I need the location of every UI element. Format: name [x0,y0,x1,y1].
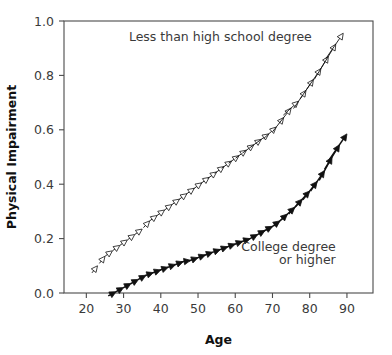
arrow-head [341,134,347,141]
arrow-head [113,245,120,251]
y-axis-tick-label: 0.8 [34,68,54,83]
y-axis-tick-label: 1.0 [34,14,54,29]
x-axis-tick-label: 60 [227,301,243,316]
arrow-head [91,266,97,273]
y-axis-tick-label: 0.0 [34,286,54,301]
x-axis-tick-label: 20 [78,301,94,316]
arrow-head [99,256,105,263]
arrow-head [180,194,187,200]
arrow-head [109,292,116,298]
arrow-shaft [326,37,341,59]
arrow-head [165,205,172,211]
y-axis-tick-label: 0.2 [34,231,54,246]
arrow-head [121,240,128,246]
arrow-head [184,258,191,264]
x-axis-tick-label: 80 [302,301,318,316]
arrow-head [139,275,146,281]
arrow-head [158,210,165,216]
arrow-head [188,188,195,194]
arrow-head [173,199,180,205]
x-axis-tick-label: 40 [153,301,169,316]
series-annotation: Less than high school degree [129,29,312,44]
arrow-head [131,279,138,285]
x-axis-tick-label: 70 [265,301,281,316]
series-1 [91,33,343,273]
x-axis-tick-label: 30 [116,301,132,316]
arrow-shaft [329,137,344,159]
y-axis-tick-label: 0.4 [34,177,54,192]
chart-container: 20304050607080900.00.20.40.60.81.0AgePhy… [0,0,392,355]
series-annotation: or higher [279,252,337,267]
y-axis-title: Physical Impairment [4,85,19,229]
y-axis-tick-label: 0.6 [34,122,54,137]
arrow-head [106,251,113,257]
arrow-head [124,283,131,289]
arrow-head [135,229,142,235]
series-2 [108,134,347,298]
x-axis-title: Age [205,332,232,347]
x-axis-tick-label: 90 [339,301,355,316]
arrow-head [150,215,157,221]
physical-impairment-by-age-chart: 20304050607080900.00.20.40.60.81.0AgePhy… [0,0,392,355]
arrow-head [128,235,135,241]
x-axis-tick-label: 50 [190,301,206,316]
arrow-head [337,33,343,40]
